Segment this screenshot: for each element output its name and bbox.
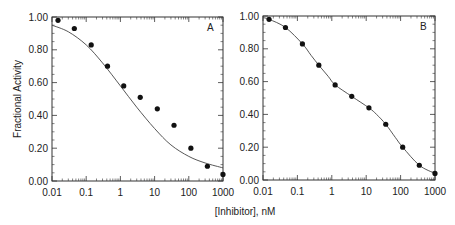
y-tick-label: 0.60 [240,76,260,87]
data-point [366,105,371,110]
y-tick-label: 1.00 [29,12,49,23]
data-point [316,63,321,68]
data-point [400,145,405,150]
y-tick-label: 0.00 [240,175,260,186]
x-axis-title: [Inhibitor], nM [215,206,276,217]
data-point [349,94,354,99]
figure: 0.010.111010010000.000.200.400.600.801.0… [0,0,455,225]
data-point [266,17,271,22]
x-tick-label: 0.01 [253,186,273,197]
y-tick-label: 0.00 [29,176,49,187]
y-tick-label: 0.40 [29,110,49,121]
y-tick-label: 0.60 [29,77,49,88]
fit-curve [52,25,223,168]
x-tick-label: 10 [361,186,373,197]
data-point [283,25,288,30]
y-tick-label: 0.40 [240,109,260,120]
x-tick-label: 10 [149,187,161,198]
x-tick-label: 0.1 [79,187,93,198]
data-point [383,122,388,127]
data-point [171,123,176,128]
panel-label: B [420,21,427,32]
data-point [105,64,110,69]
y-tick-label: 0.20 [29,143,49,154]
data-point [205,164,210,169]
data-point [300,41,305,46]
y-tick-label: 0.80 [29,44,49,55]
data-point [121,83,126,88]
fit-curve [263,18,435,174]
data-point [333,82,338,87]
data-point [417,163,422,168]
data-point [432,171,437,176]
x-tick-label: 0.1 [290,186,304,197]
panel-a: 0.010.111010010000.000.200.400.600.801.0… [29,12,235,199]
data-point [55,18,60,23]
x-tick-label: 100 [392,186,409,197]
x-tick-label: 0.01 [42,187,62,198]
data-point [138,95,143,100]
y-tick-label: 1.00 [240,11,260,22]
panel-label: A [207,22,214,33]
x-tick-label: 1 [329,186,335,197]
x-tick-label: 1000 [212,187,235,198]
data-point [220,172,225,177]
data-point [72,26,77,31]
plot-frame [52,17,223,181]
x-tick-label: 1 [118,187,124,198]
x-tick-label: 1000 [424,186,447,197]
x-tick-label: 100 [180,187,197,198]
y-axis-title: Fractional Activity [12,60,23,138]
data-point [89,42,94,47]
y-tick-label: 0.20 [240,142,260,153]
data-point [155,106,160,111]
panel-b: 0.010.111010010000.000.200.400.600.801.0… [240,11,447,198]
data-point [188,146,193,151]
y-tick-label: 0.80 [240,43,260,54]
